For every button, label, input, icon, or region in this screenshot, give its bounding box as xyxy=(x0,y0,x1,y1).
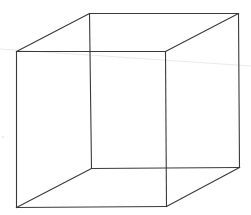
scan-artifacts xyxy=(0,49,251,138)
top-left-connector xyxy=(17,14,90,52)
necker-cube-diagram xyxy=(0,0,251,215)
bottom-right-connector xyxy=(167,168,240,207)
speck-dot xyxy=(2,136,3,137)
back-bottom-edge xyxy=(92,168,240,169)
cube-edges xyxy=(17,14,240,208)
bottom-left-connector xyxy=(17,169,92,208)
top-right-connector xyxy=(166,14,239,52)
front-right-edge xyxy=(166,52,167,207)
front-bottom-edge xyxy=(17,207,167,208)
back-right-edge xyxy=(239,14,240,168)
back-left-edge xyxy=(90,14,92,169)
